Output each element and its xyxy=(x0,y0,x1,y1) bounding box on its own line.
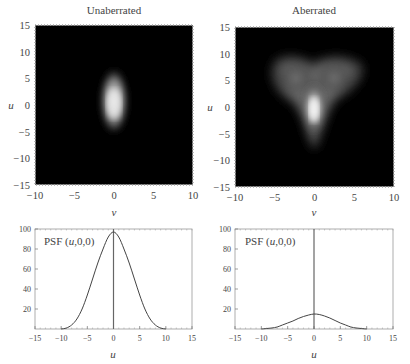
x-tick-label: −10 xyxy=(27,190,43,201)
y-tick-label: 20 xyxy=(23,305,31,314)
x-tick-label: 15 xyxy=(188,334,196,343)
x-tick-label: −5 xyxy=(269,192,280,203)
unaberrated-psf-x-label: u xyxy=(110,348,116,360)
y-tick-label: 10 xyxy=(220,49,231,60)
x-tick-label: 5 xyxy=(338,334,342,343)
y-tick-label: 100 xyxy=(219,225,231,234)
unaberrated-psf-core xyxy=(107,89,121,119)
aberrated-psf-peak xyxy=(309,98,319,122)
y-tick-label: 40 xyxy=(223,285,231,294)
y-tick-label: 20 xyxy=(223,305,231,314)
aberrated-heatmap-panel: Aberrated 151050−5−10−15 −10−50510 u v xyxy=(207,4,399,218)
x-tick-label: 0 xyxy=(312,334,316,343)
figure: Unaberrated 151050−5−10−15 −10−50510 u v… xyxy=(0,0,410,364)
y-tick-label: −10 xyxy=(14,153,30,164)
aberrated-psf-annotation: PSF (u,0,0) xyxy=(245,235,296,248)
unaberrated-psf-annotation: PSF (u,0,0) xyxy=(44,235,95,248)
x-tick-label: 0 xyxy=(111,190,116,201)
x-tick-label: 0 xyxy=(112,334,116,343)
unaberrated-psf-line-panel: 20406080100−15−10−5051015 PSF (u,0,0) u xyxy=(19,225,196,360)
unaberrated-title: Unaberrated xyxy=(87,4,142,16)
y-tick-label: 15 xyxy=(220,22,231,33)
x-tick-label: −15 xyxy=(29,334,42,343)
y-tick-label: 40 xyxy=(23,285,31,294)
x-tick-label: 15 xyxy=(389,334,397,343)
unaberrated-y-ticks: 151050−5−10−15 xyxy=(14,20,30,191)
x-tick-label: 10 xyxy=(162,334,170,343)
unaberrated-y-label: u xyxy=(8,99,14,111)
y-tick-label: 0 xyxy=(25,100,30,111)
x-tick-label: 5 xyxy=(151,190,156,201)
y-tick-label: 100 xyxy=(19,225,31,234)
x-tick-label: −5 xyxy=(69,190,80,201)
x-tick-label: −10 xyxy=(255,334,268,343)
x-tick-label: 5 xyxy=(352,192,357,203)
y-tick-label: 60 xyxy=(223,265,231,274)
x-tick-label: 0 xyxy=(312,192,317,203)
y-tick-label: 10 xyxy=(20,47,31,58)
x-tick-label: −10 xyxy=(55,334,68,343)
aberrated-y-label: u xyxy=(207,101,213,113)
unaberrated-x-label: v xyxy=(112,206,117,218)
x-tick-label: −5 xyxy=(83,334,92,343)
unaberrated-x-ticks: −10−50510 xyxy=(27,190,198,201)
unaberrated-heatmap-panel: Unaberrated 151050−5−10−15 −10−50510 u v xyxy=(8,4,198,218)
y-tick-label: 5 xyxy=(25,73,30,84)
aberrated-title: Aberrated xyxy=(292,4,336,16)
y-tick-label: 5 xyxy=(225,75,230,86)
aberrated-x-label: v xyxy=(312,206,317,218)
aberrated-psf-line-panel: 20406080100−15−10−5051015 PSF (u,0,0) u xyxy=(219,225,397,360)
aberrated-psf-x-label: u xyxy=(311,348,317,360)
aberrated-y-ticks: 151050−5−10−15 xyxy=(214,22,230,193)
y-tick-label: 80 xyxy=(223,245,231,254)
y-tick-label: −10 xyxy=(214,155,230,166)
x-tick-label: 10 xyxy=(188,190,199,201)
y-tick-label: −5 xyxy=(19,127,30,138)
y-tick-label: 0 xyxy=(225,102,230,113)
y-tick-label: −5 xyxy=(219,129,230,140)
aberrated-x-ticks: −10−50510 xyxy=(227,192,399,203)
x-tick-label: −15 xyxy=(229,334,242,343)
y-tick-label: 15 xyxy=(20,20,31,31)
x-tick-label: −5 xyxy=(283,334,292,343)
x-tick-label: −10 xyxy=(227,192,243,203)
y-tick-label: 60 xyxy=(23,265,31,274)
y-tick-label: 80 xyxy=(23,245,31,254)
x-tick-label: 10 xyxy=(389,192,400,203)
x-tick-label: 10 xyxy=(363,334,371,343)
x-tick-label: 5 xyxy=(138,334,142,343)
